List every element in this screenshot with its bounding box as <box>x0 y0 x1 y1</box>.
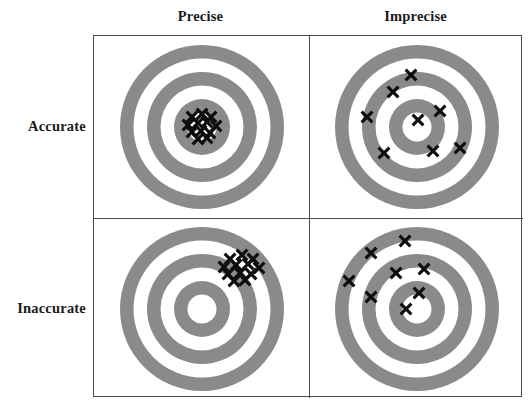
panel-grid <box>93 35 522 397</box>
row-label-accurate: Accurate <box>0 118 86 135</box>
panel-inaccurate-imprecise <box>309 218 523 398</box>
column-header-imprecise: Imprecise <box>308 8 523 25</box>
panel-accurate-imprecise <box>309 36 523 218</box>
panel-inaccurate-precise <box>94 218 309 398</box>
row-label-inaccurate: Inaccurate <box>0 300 86 317</box>
panel-accurate-precise <box>94 36 309 218</box>
accuracy-precision-figure: Precise Imprecise Accurate Inaccurate <box>0 0 531 411</box>
column-header-precise: Precise <box>93 8 308 25</box>
target-inaccurate-precise <box>112 219 292 399</box>
target-ring-6 <box>187 294 216 323</box>
target-accurate-precise <box>112 37 292 217</box>
target-inaccurate-imprecise <box>327 219 507 399</box>
target-accurate-imprecise <box>327 37 507 217</box>
